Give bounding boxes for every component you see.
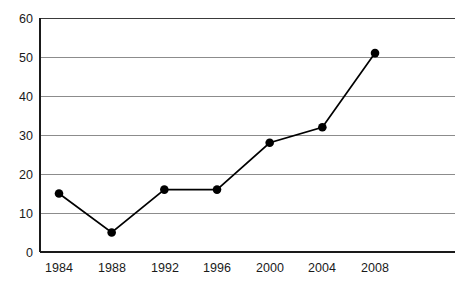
ytick-label: 60 xyxy=(19,12,33,26)
data-point xyxy=(371,49,380,58)
xtick-label: 2000 xyxy=(256,261,284,275)
data-point xyxy=(265,139,274,148)
xtick-label: 1988 xyxy=(98,261,126,275)
ytick-label: 30 xyxy=(19,129,33,143)
data-point xyxy=(213,185,222,194)
chart-background xyxy=(0,0,465,286)
xtick-label: 2004 xyxy=(308,261,336,275)
ytick-label: 20 xyxy=(19,168,33,182)
data-point xyxy=(55,189,64,198)
line-chart: 60 50 40 30 20 10 0 1984 1988 1992 1996 … xyxy=(0,0,465,286)
xtick-label: 1992 xyxy=(151,261,179,275)
chart-canvas: 60 50 40 30 20 10 0 1984 1988 1992 1996 … xyxy=(0,0,465,286)
xtick-label: 2008 xyxy=(361,261,389,275)
data-point xyxy=(318,123,327,132)
data-point xyxy=(107,228,116,237)
ytick-label: 10 xyxy=(19,207,33,221)
xtick-label: 1996 xyxy=(203,261,231,275)
xtick-label: 1984 xyxy=(45,261,73,275)
ytick-label: 40 xyxy=(19,90,33,104)
ytick-label: 0 xyxy=(26,246,33,260)
data-point xyxy=(160,185,169,194)
ytick-label: 50 xyxy=(19,51,33,65)
